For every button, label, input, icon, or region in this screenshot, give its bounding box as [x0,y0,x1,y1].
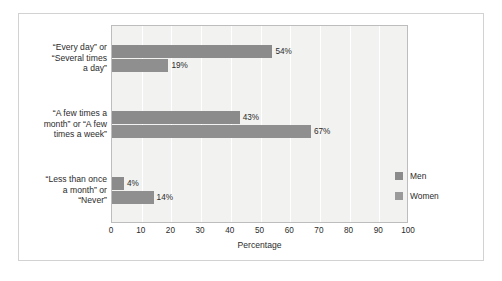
category-label-0: “Every day” or“Several timesa day” [17,42,107,74]
bar-women-0 [112,59,168,72]
x-tick-label: 50 [255,226,264,235]
x-tick-label: 0 [109,226,114,235]
legend-label: Men [410,171,426,181]
bar-value-label: 4% [127,177,139,190]
bar-value-label: 14% [157,191,173,204]
bar-women-2 [112,191,154,204]
x-tick-label: 60 [285,226,294,235]
category-label-line: “Several times [17,53,107,64]
category-axis-labels: “Every day” or“Several timesa day”“A few… [15,25,107,223]
bar-value-label: 67% [314,125,330,138]
category-label-1: “A few times amonth” or “A fewtimes a we… [17,108,107,140]
bar-women-1 [112,125,311,138]
x-tick-label: 90 [374,226,383,235]
gridline [379,26,380,222]
x-axis-ticks: 0102030405060708090100 [111,224,408,240]
legend-item-men[interactable]: Men [395,168,465,184]
category-label-line: times a week” [17,129,107,140]
category-label-line: a day” [17,63,107,74]
category-label-line: “Never” [17,195,107,206]
bar-men-2 [112,177,124,190]
legend-swatch-icon [395,172,403,180]
chart-figure: 54%19%43%67%4%14% “Every day” or“Several… [0,0,502,281]
bar-value-label: 43% [243,111,259,124]
legend-swatch-icon [395,192,403,200]
bar-value-label: 19% [171,59,187,72]
legend-label: Women [410,191,439,201]
gridline [350,26,351,222]
x-tick-label: 20 [166,226,175,235]
x-tick-label: 30 [196,226,205,235]
bar-value-label: 54% [275,45,291,58]
x-tick-label: 80 [344,226,353,235]
bar-men-1 [112,111,240,124]
category-label-2: “Less than oncea month” or“Never” [17,174,107,206]
x-axis-title: Percentage [111,240,408,250]
chart-legend: MenWomen [395,168,465,208]
category-label-line: “Every day” or [17,42,107,53]
legend-item-women[interactable]: Women [395,188,465,204]
x-tick-label: 100 [401,226,415,235]
category-label-line: “A few times a [17,108,107,119]
x-tick-label: 40 [225,226,234,235]
bar-men-0 [112,45,272,58]
category-label-line: month” or “A few [17,119,107,130]
category-label-line: “Less than once [17,174,107,185]
category-label-line: a month” or [17,185,107,196]
x-tick-label: 70 [314,226,323,235]
x-tick-label: 10 [136,226,145,235]
